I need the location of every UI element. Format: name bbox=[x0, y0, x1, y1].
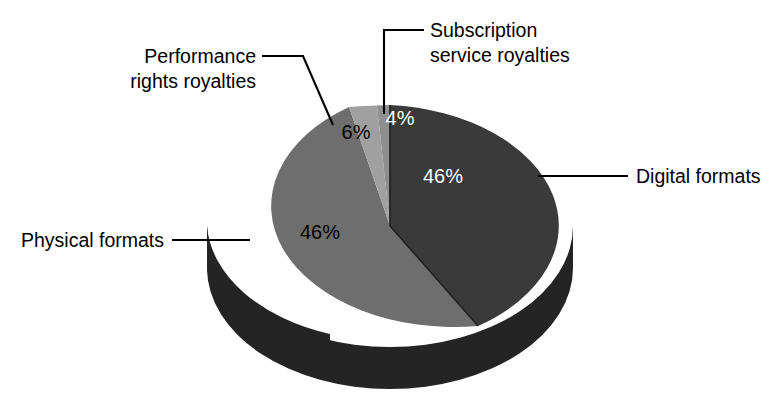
callout-label-physical: Physical formats bbox=[21, 229, 164, 251]
value-label-digital: 46% bbox=[423, 165, 463, 187]
value-label-performance: 6% bbox=[342, 121, 371, 143]
callout-label-digital: Digital formats bbox=[636, 165, 761, 187]
value-label-physical: 46% bbox=[300, 221, 340, 243]
leader-line-subscription bbox=[384, 30, 424, 114]
callout-label-subscription-line1: Subscription bbox=[430, 19, 537, 41]
pie-top-face bbox=[271, 105, 559, 327]
value-label-subscription: 4% bbox=[386, 107, 415, 129]
callout-label-performance-line2: rights royalties bbox=[130, 70, 256, 92]
callout-label-subscription-line2: service royalties bbox=[430, 44, 570, 66]
pie-chart-figure: 46% 46% 6% 4% Subscription service royal… bbox=[0, 0, 783, 403]
callout-label-performance-line1: Performance bbox=[144, 45, 256, 67]
leader-line-performance bbox=[262, 56, 333, 125]
pie-chart-canvas: 46% 46% 6% 4% Subscription service royal… bbox=[0, 0, 783, 403]
